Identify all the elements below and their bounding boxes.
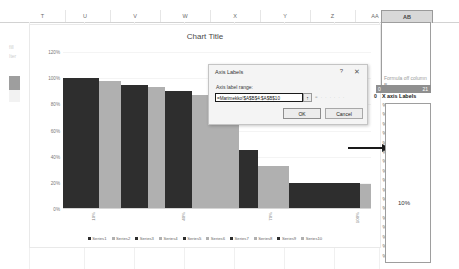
y-gridline — [63, 52, 371, 53]
legend-item-series10[interactable]: Series10 — [301, 236, 322, 241]
y-axis-tick: 40% — [38, 154, 60, 159]
legend-item-series5[interactable]: Series5 — [183, 236, 202, 241]
legend-label: Series9 — [282, 236, 296, 241]
dialog-title: Axis Labels — [215, 69, 243, 75]
legend-label: Series1 — [92, 236, 106, 241]
x-axis-tick: 100% — [355, 212, 360, 223]
legend-swatch-icon — [230, 237, 233, 240]
legend-swatch-icon — [159, 237, 162, 240]
legend-item-series9[interactable]: Series9 — [277, 236, 296, 241]
x-axis-tick: 70% — [268, 212, 273, 221]
row-value-right: 21 — [422, 86, 428, 92]
x-axis-line — [63, 208, 371, 209]
column-header-V[interactable]: V — [110, 10, 161, 22]
legend-label: Series3 — [140, 236, 154, 241]
screenshot-root: TUVWXYZAAAB fill Iter Chart Title 120%10… — [0, 0, 459, 269]
y-axis-tick: 0% — [38, 207, 60, 212]
bar-series9[interactable] — [289, 183, 361, 209]
cell-lower-block[interactable] — [385, 103, 431, 263]
legend-item-series7[interactable]: Series7 — [230, 236, 249, 241]
left-faint-label-2: Iter — [9, 53, 16, 59]
left-faint-label-1: fill — [9, 44, 14, 50]
left-color-swatch-light — [9, 90, 20, 102]
axis-label-range-input[interactable]: =Marimekko!$A$B$4:$A$B$10 — [215, 93, 303, 102]
cell-ab-block[interactable]: Formula off column B — [381, 22, 431, 92]
bar-series3[interactable] — [121, 85, 149, 209]
x-axis-labels-title: X axis Labels — [382, 93, 416, 99]
column-header-Y[interactable]: Y — [260, 10, 311, 22]
column-header-Z[interactable]: Z — [310, 10, 356, 22]
legend-swatch-icon — [206, 237, 209, 240]
cancel-button[interactable]: Cancel — [325, 108, 363, 119]
bar-series8[interactable] — [258, 166, 288, 209]
axis-labels-dialog[interactable]: Axis Labels ? ✕ Axis label range: =Marim… — [208, 64, 368, 125]
bar-series2[interactable] — [99, 81, 121, 209]
legend-label: Series4 — [163, 236, 177, 241]
bar-series4[interactable] — [148, 87, 165, 209]
range-picker-icon[interactable]: ↑ — [303, 93, 312, 102]
legend-item-series8[interactable]: Series8 — [254, 236, 273, 241]
y-axis-tick: 100% — [38, 76, 60, 81]
chart-title: Chart Title — [30, 32, 380, 41]
bar-series5[interactable] — [165, 91, 193, 209]
row-value-left: 0 — [378, 86, 381, 92]
legend-item-series1[interactable]: Series1 — [88, 236, 107, 241]
legend-label: Series7 — [235, 236, 249, 241]
legend-label: Series6 — [211, 236, 225, 241]
x-axis-tick: 10% — [91, 212, 96, 221]
legend-swatch-icon — [254, 237, 257, 240]
column-header-X[interactable]: X — [210, 10, 261, 22]
legend-item-series6[interactable]: Series6 — [206, 236, 225, 241]
y-axis-tick: 120% — [38, 50, 60, 55]
left-color-swatch — [9, 76, 20, 90]
chart-legend[interactable]: Series1Series2Series3Series4Series5Serie… — [30, 236, 380, 241]
bar-series1[interactable] — [63, 78, 99, 209]
axis-label-range-label: Axis label range: — [216, 84, 253, 90]
sample-percent-cell: 10% — [398, 200, 410, 206]
help-icon[interactable]: ? — [340, 68, 343, 74]
legend-swatch-icon — [301, 237, 304, 240]
column-header-U[interactable]: U — [60, 10, 111, 22]
legend-item-series3[interactable]: Series3 — [135, 236, 154, 241]
y-axis-tick: 20% — [38, 180, 60, 185]
y-axis-tick: 80% — [38, 102, 60, 107]
chart-object[interactable]: Chart Title 120%100%80%60%40%20%0% 10%40… — [29, 24, 381, 248]
range-preview-text: = . . . . . . — [315, 94, 345, 99]
legend-item-series2[interactable]: Series2 — [112, 236, 131, 241]
selected-number-row[interactable]: 0 21 — [376, 85, 431, 93]
legend-label: Series2 — [116, 236, 130, 241]
axis-label-range-row: =Marimekko!$A$B$4:$A$B$10 ↑ = . . . . . … — [215, 93, 361, 104]
x-axis-labels-prefix: 0 — [374, 93, 377, 99]
dialog-titlebar[interactable]: Axis Labels ? ✕ — [209, 65, 367, 80]
legend-swatch-icon — [183, 237, 186, 240]
legend-swatch-icon — [112, 237, 115, 240]
bar-series7[interactable] — [239, 150, 258, 209]
y-axis-tick: 60% — [38, 128, 60, 133]
legend-swatch-icon — [135, 237, 138, 240]
legend-label: Series10 — [306, 236, 323, 241]
legend-item-series4[interactable]: Series4 — [159, 236, 178, 241]
legend-swatch-icon — [88, 237, 91, 240]
legend-swatch-icon — [277, 237, 280, 240]
close-icon[interactable]: ✕ — [354, 68, 360, 76]
bar-series10[interactable] — [360, 184, 371, 209]
ok-button[interactable]: OK — [283, 108, 321, 119]
x-axis-tick: 40% — [181, 212, 186, 221]
column-header-W[interactable]: W — [160, 10, 211, 22]
legend-label: Series5 — [187, 236, 201, 241]
legend-label: Series8 — [258, 236, 272, 241]
